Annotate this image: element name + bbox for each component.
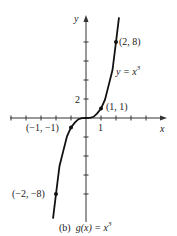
figure-caption: (b) g(x) = x3 [59,221,111,233]
point-label-neg2-neg8: (−2, −8) [12,189,45,199]
point-label-2-8: (2, 8) [119,37,141,47]
point-2-8 [114,40,118,44]
point-1-1 [99,107,103,111]
point-label-neg1-neg1: (−1, −1) [26,123,59,133]
y-tick-label: 2 [75,95,80,105]
x-tick-label: 1 [98,123,103,133]
x-axis-arrow-icon [160,116,167,121]
cubic-graph [0,0,177,236]
point-neg1-neg1 [69,126,73,130]
curve-label: y = x3 [116,65,140,77]
y-axis-arrow-icon [84,15,89,22]
point-neg2-neg8 [54,192,58,196]
x-axis-label: x [160,124,164,134]
y-axis-label: y [74,14,78,24]
point-label-1-1: (1, 1) [106,102,128,112]
